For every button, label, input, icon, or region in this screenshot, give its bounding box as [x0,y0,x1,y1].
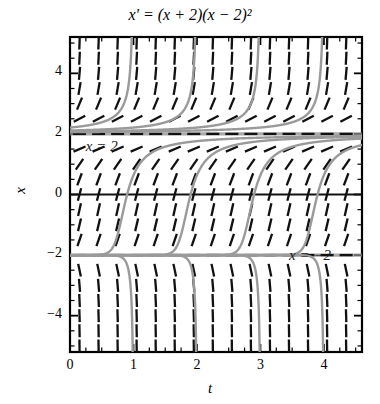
slope-mark [188,147,200,152]
slope-mark [134,98,139,110]
slope-mark [230,203,233,216]
slope-mark [192,203,195,216]
slope-mark [346,279,347,292]
slope-mark [172,98,177,110]
slope-mark [326,82,328,95]
slope-mark [79,52,80,65]
slope-mark [97,82,99,95]
slope-mark [306,188,309,201]
slope-mark [135,188,138,201]
slope-mark [212,279,213,292]
slope-mark [346,294,347,307]
slope-mark [232,294,233,307]
slope-mark [210,98,215,110]
slope-mark [136,82,138,95]
slope-mark [98,52,99,65]
slope-mark [307,82,309,95]
slope-mark [136,52,137,65]
slope-mark [97,203,100,216]
figure-container: x' = (x + 2)(x − 2)² x t 01234420−2−4x =… [0,0,380,404]
slope-mark [231,264,234,277]
slope-mark [250,279,251,292]
slope-mark [117,67,118,80]
slope-mark [136,279,137,292]
slope-mark [174,279,175,292]
slope-mark [231,67,232,80]
slope-mark [77,98,82,110]
slope-mark [269,67,270,80]
slope-mark [268,234,272,246]
slope-mark [344,98,349,110]
slope-mark [307,67,308,80]
slope-mark [192,234,196,246]
slope-mark [325,98,330,110]
slope-mark [269,203,272,216]
slope-mark [78,264,81,277]
slope-mark [174,67,175,80]
slope-mark [117,52,118,65]
slope-mark [78,203,81,216]
x-tick-label: 3 [240,357,280,373]
slope-mark [269,82,271,95]
slope-mark [264,147,276,152]
slope-mark [287,234,291,246]
slope-mark [288,279,289,292]
slope-mark [79,279,80,292]
x-tick-label: 0 [50,357,90,373]
slope-mark [135,234,139,246]
x-axis-label: t [208,380,212,397]
slope-mark [342,159,349,170]
slope-mark [155,294,156,307]
slope-mark [116,264,119,277]
slope-mark [154,188,157,201]
slope-mark [79,294,80,307]
slope-mark [117,294,118,307]
slope-mark [114,159,121,170]
slope-mark [250,67,251,80]
slope-mark [307,203,310,216]
slope-mark [268,188,271,201]
slope-mark [251,52,252,65]
slope-mark [117,82,119,95]
slope-mark [136,294,137,307]
slope-mark [267,98,272,110]
slope-mark [134,173,139,185]
slope-mark [190,159,197,170]
slope-mark [74,147,86,152]
x-tick-label: 2 [177,357,217,373]
slope-mark [209,159,216,170]
slope-mark [173,203,176,216]
solution-curve [65,138,367,255]
slope-mark [207,116,218,122]
slope-mark [288,67,289,80]
slope-mark [173,188,176,201]
slope-mark [191,98,196,110]
slope-mark [212,264,215,277]
equilibrium-annotation: x = 2 [86,138,118,155]
slope-mark [340,116,351,122]
slope-mark [97,264,100,277]
slope-mark [321,147,333,152]
slope-mark [308,294,309,307]
slope-mark [211,218,214,231]
slope-mark [77,234,81,246]
slope-mark [327,279,328,292]
slope-mark [289,52,290,65]
slope-mark [250,264,253,277]
y-tick-label: −4 [24,306,62,322]
slope-mark [270,52,271,65]
slope-mark [152,159,159,170]
slope-mark [308,279,309,292]
slope-mark [288,82,290,95]
slope-mark [78,188,81,201]
slope-mark [326,264,329,277]
slope-mark [288,218,291,231]
slope-mark [153,98,158,110]
y-tick-label: 4 [24,63,62,79]
slope-mark [211,173,216,185]
slope-mark [344,234,348,246]
slope-mark [228,159,235,170]
slope-mark [308,52,309,65]
slope-mark [345,264,348,277]
slope-mark [345,218,348,231]
